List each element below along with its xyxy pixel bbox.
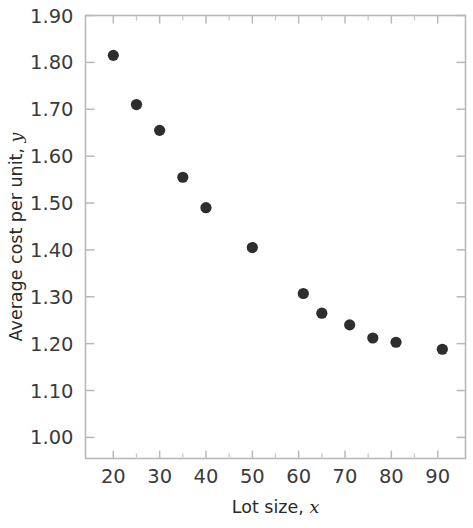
data-point bbox=[177, 172, 188, 183]
y-tick-label: 1.30 bbox=[30, 286, 73, 309]
x-axis-title: Lot size, x bbox=[232, 497, 320, 517]
plot-area-svg: 2030405060708090 1.001.101.201.301.401.5… bbox=[0, 0, 473, 528]
data-point bbox=[247, 242, 258, 253]
data-point bbox=[344, 319, 355, 330]
x-tick-label: 80 bbox=[379, 465, 404, 488]
y-axis-ticks bbox=[86, 16, 466, 438]
x-axis-ticks bbox=[113, 16, 437, 459]
x-tick-label: 70 bbox=[333, 465, 358, 488]
y-axis-title: Average cost per unit, y bbox=[6, 131, 26, 341]
data-point bbox=[437, 344, 448, 355]
data-point bbox=[200, 202, 211, 213]
axis-frame bbox=[86, 16, 466, 459]
data-point bbox=[316, 308, 327, 319]
data-point bbox=[108, 50, 119, 61]
y-axis-tick-labels: 1.001.101.201.301.401.501.601.701.801.90 bbox=[30, 5, 73, 450]
x-tick-label: 60 bbox=[286, 465, 311, 488]
data-point bbox=[367, 332, 378, 343]
y-tick-label: 1.60 bbox=[30, 145, 73, 168]
x-tick-label: 90 bbox=[425, 465, 450, 488]
y-tick-label: 1.70 bbox=[30, 98, 73, 121]
x-axis-title-text: Lot size, x bbox=[232, 497, 320, 517]
x-tick-label: 40 bbox=[194, 465, 219, 488]
x-axis-tick-labels: 2030405060708090 bbox=[101, 465, 450, 488]
x-tick-label: 50 bbox=[240, 465, 265, 488]
data-point bbox=[131, 99, 142, 110]
y-tick-label: 1.80 bbox=[30, 51, 73, 74]
data-point bbox=[390, 337, 401, 348]
y-tick-label: 1.90 bbox=[30, 5, 73, 28]
y-tick-label: 1.50 bbox=[30, 192, 73, 215]
y-tick-label: 1.00 bbox=[30, 426, 73, 449]
y-tick-label: 1.20 bbox=[30, 333, 73, 356]
x-tick-label: 30 bbox=[147, 465, 172, 488]
data-point bbox=[154, 125, 165, 136]
data-point-series bbox=[108, 50, 448, 355]
scatter-chart: 2030405060708090 1.001.101.201.301.401.5… bbox=[0, 0, 473, 528]
y-axis-title-text: Average cost per unit, y bbox=[6, 131, 26, 341]
y-tick-label: 1.40 bbox=[30, 239, 73, 262]
data-point bbox=[298, 288, 309, 299]
x-tick-label: 20 bbox=[101, 465, 126, 488]
y-tick-label: 1.10 bbox=[30, 380, 73, 403]
